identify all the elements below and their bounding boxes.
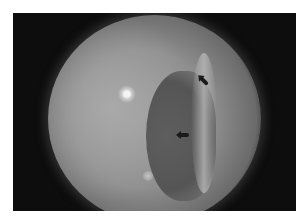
- arrow-icon-lower: [179, 133, 189, 137]
- image-frame: [13, 13, 296, 211]
- bright-rim: [191, 53, 217, 193]
- lower-bright-spot: [143, 171, 153, 181]
